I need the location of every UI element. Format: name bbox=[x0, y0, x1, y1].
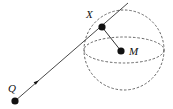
point-x bbox=[98, 23, 105, 30]
point-m bbox=[117, 47, 124, 54]
point-q bbox=[11, 97, 18, 104]
label-q: Q bbox=[8, 82, 16, 94]
sphere-ray-diagram: Q X M bbox=[0, 0, 173, 109]
label-x: X bbox=[85, 8, 94, 20]
label-m: M bbox=[128, 45, 139, 57]
ray-qx bbox=[15, 3, 128, 101]
